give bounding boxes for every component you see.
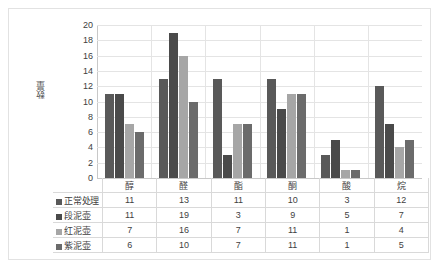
- y-axis-tick-10: 10: [65, 97, 93, 106]
- bar: [223, 155, 232, 178]
- category-label: 酮: [288, 181, 297, 191]
- table-column-header-酸: 酸: [320, 178, 374, 193]
- bar: [321, 155, 330, 178]
- bar-group-醇: [97, 25, 151, 178]
- table-cell: 5: [320, 208, 374, 223]
- table-cell: 11: [265, 238, 319, 253]
- bar: [189, 102, 198, 179]
- table-column-header-酯: 酯: [211, 178, 265, 193]
- table-cell: 7: [103, 223, 157, 238]
- table-cell: 6: [103, 238, 157, 253]
- bar: [233, 124, 242, 178]
- table-cell: 1: [320, 238, 374, 253]
- bar: [405, 140, 414, 178]
- category-label: 酯: [234, 181, 243, 191]
- y-axis-tick-16: 16: [65, 51, 93, 60]
- legend-item-紫泥壶[interactable]: 紫泥壶: [53, 238, 103, 253]
- y-axis-tick-2: 2: [65, 158, 93, 167]
- plot-area: [97, 25, 422, 178]
- y-axis-tick-6: 6: [65, 128, 93, 137]
- bar: [395, 147, 404, 178]
- bar: [243, 124, 252, 178]
- category-label: 烷: [397, 181, 406, 191]
- table-corner-cell: [53, 178, 103, 193]
- bar-group-醛: [151, 25, 205, 178]
- category-label: 醇: [125, 181, 134, 191]
- table-column-header-酮: 酮: [265, 178, 319, 193]
- y-axis-tick-4: 4: [65, 143, 93, 152]
- table-column-header-烷: 烷: [374, 178, 428, 193]
- legend-label: 段泥壶: [64, 211, 90, 221]
- category-label: 醛: [179, 181, 188, 191]
- bar: [169, 33, 178, 178]
- bar: [287, 94, 296, 178]
- y-axis-tick-18: 18: [65, 36, 93, 45]
- table-cell: 10: [157, 238, 211, 253]
- data-table: 醇醛酯酮酸烷正常处理11131110312段泥壶11193957红泥壶71671…: [53, 178, 429, 253]
- legend-swatch-icon: [56, 199, 62, 205]
- bar-group-烷: [368, 25, 422, 178]
- legend-item-红泥壶[interactable]: 红泥壶: [53, 223, 103, 238]
- table-column-header-醛: 醛: [157, 178, 211, 193]
- table-cell: 9: [265, 208, 319, 223]
- table-row: 红泥壶71671114: [53, 223, 428, 238]
- bar: [159, 79, 168, 178]
- legend-item-段泥壶[interactable]: 段泥壶: [53, 208, 103, 223]
- table-cell: 11: [265, 223, 319, 238]
- legend-item-正常处理[interactable]: 正常处理: [53, 193, 103, 208]
- table-cell: 13: [157, 193, 211, 208]
- bar-group-酸: [314, 25, 368, 178]
- table-cell: 3: [320, 193, 374, 208]
- bar: [341, 170, 350, 178]
- bar: [179, 56, 188, 178]
- legend-swatch-icon: [56, 229, 62, 235]
- table-row: 正常处理11131110312: [53, 193, 428, 208]
- bars-layer: [97, 25, 422, 178]
- legend-label: 紫泥壶: [64, 241, 90, 251]
- table-cell: 7: [374, 208, 428, 223]
- legend-label: 红泥壶: [64, 226, 90, 236]
- table-cell: 1: [320, 223, 374, 238]
- bar-group-酯: [205, 25, 259, 178]
- table-cell: 3: [211, 208, 265, 223]
- bar: [385, 124, 394, 178]
- legend-label: 正常处理: [64, 196, 99, 206]
- y-axis-title: 数量: [35, 61, 49, 119]
- bar-group-酮: [260, 25, 314, 178]
- table-header-row: 醇醛酯酮酸烷: [53, 178, 428, 193]
- y-axis-tick-20: 20: [65, 21, 93, 30]
- chart-frame: 数量 20181614121086420 醇醛酯酮酸烷正常处理111311103…: [8, 8, 431, 260]
- y-axis-tick-labels: 20181614121086420: [65, 25, 93, 178]
- bar: [351, 170, 360, 178]
- bar: [115, 94, 124, 178]
- bar: [267, 79, 276, 178]
- bar: [125, 124, 134, 178]
- table-cell: 10: [265, 193, 319, 208]
- bar: [297, 94, 306, 178]
- category-label: 酸: [342, 181, 351, 191]
- table-cell: 16: [157, 223, 211, 238]
- y-axis-tick-12: 12: [65, 82, 93, 91]
- bar: [277, 109, 286, 178]
- bar: [135, 132, 144, 178]
- table-column-header-醇: 醇: [103, 178, 157, 193]
- table-cell: 5: [374, 238, 428, 253]
- y-axis-tick-8: 8: [65, 112, 93, 121]
- table-cell: 11: [103, 208, 157, 223]
- bar: [105, 94, 114, 178]
- table-cell: 11: [211, 193, 265, 208]
- bar: [375, 86, 384, 178]
- table-cell: 19: [157, 208, 211, 223]
- legend-swatch-icon: [56, 214, 62, 220]
- table-cell: 4: [374, 223, 428, 238]
- table-cell: 12: [374, 193, 428, 208]
- bar: [331, 140, 340, 178]
- table-row: 紫泥壶61071115: [53, 238, 428, 253]
- y-axis-tick-14: 14: [65, 66, 93, 75]
- table-cell: 11: [103, 193, 157, 208]
- table-cell: 7: [211, 238, 265, 253]
- legend-swatch-icon: [56, 244, 62, 250]
- table-row: 段泥壶11193957: [53, 208, 428, 223]
- bar: [213, 79, 222, 178]
- table-cell: 7: [211, 223, 265, 238]
